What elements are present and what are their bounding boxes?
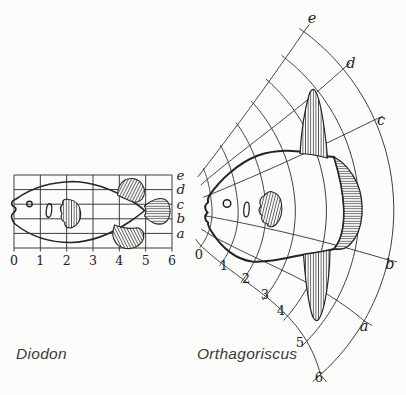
fan-arc-tick-2: 2 [242, 271, 250, 286]
orthagoriscus-figure: 0 1 2 3 4 5 6 e d c b a Orthagoriscus [195, 10, 397, 385]
diodon-pectoral-fin [60, 199, 80, 228]
diodon-x-tick-4: 4 [115, 253, 123, 268]
diodon-caption: Diodon [16, 345, 67, 362]
diodon-x-tick-0: 0 [10, 253, 18, 268]
diodon-anal-fin [113, 225, 144, 249]
orthagoriscus-pectoral-fin [259, 192, 282, 227]
transformation-diagram: 0 1 2 3 4 5 6 e d c b a Diodon 0 1 [0, 0, 406, 395]
orthagoriscus-caption: Orthagoriscus [197, 345, 297, 362]
figure-canvas: 0 1 2 3 4 5 6 e d c b a Diodon 0 1 [0, 0, 406, 395]
orthagoriscus-eye [223, 200, 231, 208]
fan-arc-tick-4: 4 [277, 303, 285, 318]
fan-ray-label-d: d [346, 55, 355, 71]
diodon-x-tick-5: 5 [142, 253, 150, 268]
diodon-dorsal-fin [118, 178, 145, 202]
fan-arc-tick-0: 0 [195, 247, 203, 262]
fan-ray-label-a: a [360, 318, 369, 334]
diodon-row-label-c: c [177, 196, 185, 212]
diodon-row-label-a: a [177, 225, 185, 241]
diodon-x-tick-1: 1 [36, 253, 44, 268]
diodon-row-label-e: e [177, 167, 185, 183]
diodon-row-label-b: b [177, 210, 186, 226]
diodon-x-tick-3: 3 [89, 253, 97, 268]
fan-ray-label-b: b [385, 256, 394, 272]
diodon-gill [46, 203, 53, 217]
diodon-x-tick-6: 6 [168, 253, 176, 268]
fan-ray-label-e: e [308, 10, 317, 26]
fan-ray-label-c: c [377, 112, 385, 128]
fan-arc-tick-3: 3 [261, 287, 269, 302]
diodon-row-label-d: d [177, 181, 186, 197]
fan-arc-tick-1: 1 [220, 258, 228, 273]
diodon-x-tick-2: 2 [63, 253, 71, 268]
diodon-caudal-fin [145, 199, 171, 225]
orthagoriscus-anal-fin [304, 250, 331, 321]
fan-arc-tick-6: 6 [315, 370, 323, 385]
orthagoriscus-dorsal-fin [300, 89, 328, 158]
diodon-figure: 0 1 2 3 4 5 6 e d c b a Diodon [10, 167, 185, 362]
orthagoriscus-gill [243, 202, 249, 217]
